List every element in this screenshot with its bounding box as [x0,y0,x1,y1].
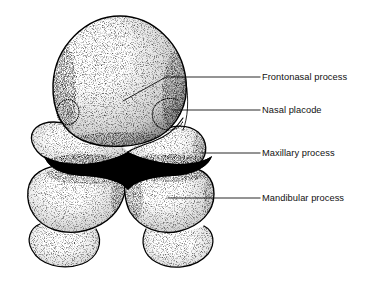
label-mandibular-process: Mandibular process [262,193,344,203]
label-nasal-placode: Nasal placode [262,105,322,115]
embryo-face-diagram: Embryonic face: frontal view of developi… [0,0,375,290]
figure-container: Embryonic face: frontal view of developi… [0,0,375,290]
label-maxillary-process: Maxillary process [262,148,335,158]
label-frontonasal-process: Frontonasal process [262,72,347,82]
